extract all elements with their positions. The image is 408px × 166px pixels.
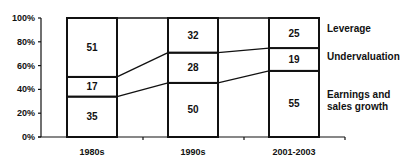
legend-item: Undervaluation bbox=[327, 51, 400, 62]
bar-1980s: 351751 bbox=[67, 18, 117, 137]
segment-value-label: 25 bbox=[288, 28, 300, 39]
x-axis: 1980s1990s2001-2003 bbox=[38, 137, 345, 157]
segment-value-label: 50 bbox=[187, 104, 199, 115]
legend-label: Earnings and bbox=[327, 89, 390, 100]
bar-2001-2003: 551925 bbox=[269, 18, 319, 137]
segment-value-label: 17 bbox=[86, 81, 98, 92]
legend-label: Leverage bbox=[327, 23, 371, 34]
segment-value-label: 55 bbox=[288, 98, 300, 109]
x-category-label: 2001-2003 bbox=[272, 147, 315, 157]
x-category-label: 1990s bbox=[180, 147, 205, 157]
segment-value-label: 19 bbox=[288, 54, 300, 65]
x-category-label: 1980s bbox=[79, 147, 104, 157]
y-tick-label: 80% bbox=[17, 37, 35, 47]
y-axis: 0%20%40%60%80%100% bbox=[12, 13, 41, 142]
legend: LeverageUndervaluationEarnings andsales … bbox=[327, 23, 400, 112]
y-tick-label: 40% bbox=[17, 84, 35, 94]
y-tick-label: 20% bbox=[17, 108, 35, 118]
y-tick-label: 100% bbox=[12, 13, 35, 23]
segment-value-label: 51 bbox=[86, 42, 98, 53]
legend-label: sales growth bbox=[327, 101, 388, 112]
stacked-bar-chart: 0%20%40%60%80%100% 1980s1990s2001-2003 3… bbox=[0, 0, 408, 166]
bar-1990s: 502832 bbox=[168, 18, 218, 137]
legend-item: Leverage bbox=[327, 23, 371, 34]
legend-label: Undervaluation bbox=[327, 51, 400, 62]
legend-item: Earnings andsales growth bbox=[327, 89, 390, 112]
segment-value-label: 28 bbox=[187, 62, 199, 73]
bars: 351751502832551925 bbox=[67, 18, 319, 137]
segment-value-label: 35 bbox=[86, 111, 98, 122]
segment-value-label: 32 bbox=[187, 30, 199, 41]
y-tick-label: 60% bbox=[17, 61, 35, 71]
y-tick-label: 0% bbox=[22, 132, 35, 142]
